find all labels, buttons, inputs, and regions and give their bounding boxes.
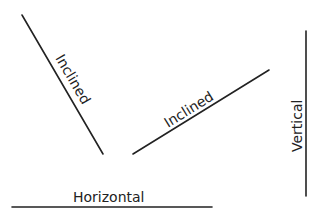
inclined-label-middle: Inclined (161, 88, 216, 130)
line-orientation-diagram: Inclined Inclined Vertical Horizontal (0, 0, 325, 217)
inclined-line-left (22, 15, 103, 154)
vertical-label: Vertical (289, 100, 305, 152)
inclined-line-middle (133, 70, 269, 154)
horizontal-label: Horizontal (73, 189, 144, 205)
